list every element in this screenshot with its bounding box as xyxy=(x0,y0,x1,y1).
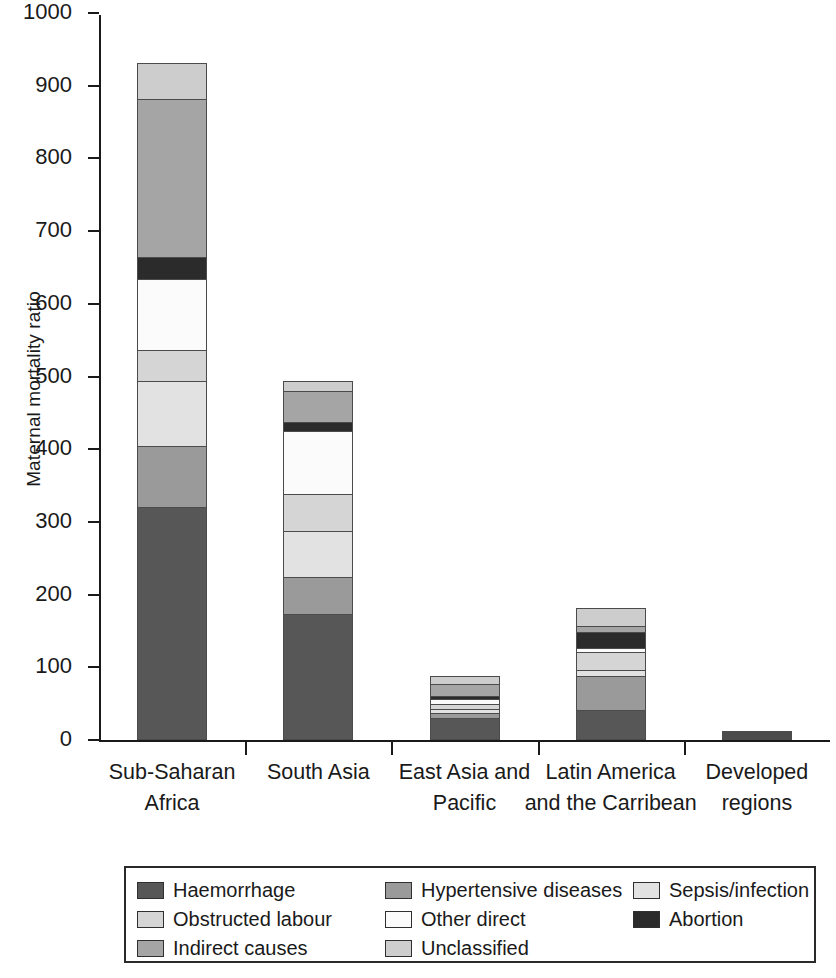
x-axis-label: Developedregions xyxy=(671,757,836,819)
y-axis-tick: 800 xyxy=(88,157,99,159)
bar-segment xyxy=(576,676,646,712)
bar-south-asia[interactable] xyxy=(283,381,353,740)
bar-segment xyxy=(283,494,353,533)
y-axis-tick: 600 xyxy=(88,303,99,305)
x-axis-tick xyxy=(391,742,393,755)
y-axis-tick: 700 xyxy=(88,230,99,232)
legend-item-sepsis-infection[interactable]: Sepsis/infection xyxy=(633,879,814,902)
legend-item-haemorrhage[interactable]: Haemorrhage xyxy=(137,879,385,902)
y-axis-tick-label: 0 xyxy=(0,726,72,752)
legend-grid: HaemorrhageHypertensive diseasesSepsis/i… xyxy=(137,876,814,963)
y-axis-tick: 1000 xyxy=(88,12,99,14)
bar-segment xyxy=(283,531,353,578)
legend-label: Sepsis/infection xyxy=(669,879,809,902)
legend-swatch xyxy=(385,882,412,899)
legend-label: Other direct xyxy=(421,908,525,931)
bar-segment xyxy=(137,507,207,740)
bar-segment xyxy=(283,431,353,495)
y-axis-tick-label: 300 xyxy=(0,508,72,534)
bar-latin-america-and-the-carribean[interactable] xyxy=(576,608,646,740)
legend-label: Indirect causes xyxy=(173,937,308,960)
legend-item-obstructed-labour[interactable]: Obstructed labour xyxy=(137,908,385,931)
y-axis-tick-label: 400 xyxy=(0,435,72,461)
bar-segment xyxy=(283,614,353,740)
y-axis-tick: 900 xyxy=(88,85,99,87)
bar-segment xyxy=(576,710,646,740)
y-axis-tick-label: 900 xyxy=(0,72,72,98)
maternal-mortality-stacked-bar-chart: Maternal mortality ratio 010020030040050… xyxy=(0,0,836,978)
bar-segment xyxy=(137,279,207,352)
y-axis-tick-label: 500 xyxy=(0,363,72,389)
y-axis-tick-label: 1000 xyxy=(0,0,72,25)
legend-swatch xyxy=(385,911,412,928)
y-axis-tick-label: 200 xyxy=(0,581,72,607)
bar-segment xyxy=(283,577,353,615)
legend-swatch xyxy=(633,882,660,899)
legend-swatch xyxy=(137,911,164,928)
x-axis-category-labels: Sub-SaharanAfricaSouth AsiaEast Asia and… xyxy=(99,757,830,823)
y-axis-tick: 200 xyxy=(88,594,99,596)
legend-label: Abortion xyxy=(669,908,744,931)
legend-label: Obstructed labour xyxy=(173,908,332,931)
legend-item-abortion[interactable]: Abortion xyxy=(633,908,814,931)
legend: HaemorrhageHypertensive diseasesSepsis/i… xyxy=(124,866,816,963)
bar-segment xyxy=(576,652,646,671)
legend-swatch xyxy=(137,882,164,899)
y-axis-tick: 300 xyxy=(88,521,99,523)
bar-segment xyxy=(137,381,207,446)
legend-label: Haemorrhage xyxy=(173,879,295,902)
y-axis-tick: 0 xyxy=(88,739,99,741)
x-axis-tick xyxy=(245,742,247,755)
bar-segment xyxy=(722,738,792,740)
x-axis-tick xyxy=(684,742,686,755)
y-axis-tick-label: 100 xyxy=(0,653,72,679)
y-axis-tick: 500 xyxy=(88,376,99,378)
bar-segment xyxy=(430,718,500,740)
bar-segment xyxy=(576,632,646,649)
x-axis-label-line: Developed xyxy=(671,757,836,788)
legend-item-indirect-causes[interactable]: Indirect causes xyxy=(137,937,385,960)
legend-label: Unclassified xyxy=(421,937,529,960)
y-axis-tick-label: 600 xyxy=(0,290,72,316)
bar-segment xyxy=(137,446,207,509)
bar-east-asia-and-pacific[interactable] xyxy=(430,676,500,740)
legend-swatch xyxy=(137,940,164,957)
bar-segment xyxy=(576,608,646,627)
legend-label: Hypertensive diseases xyxy=(421,879,622,902)
y-axis-tick: 100 xyxy=(88,666,99,668)
y-axis-tick-label: 800 xyxy=(0,144,72,170)
bar-segment xyxy=(283,391,353,424)
x-axis-line xyxy=(99,740,830,742)
bar-segment xyxy=(137,257,207,280)
bar-segment xyxy=(137,63,207,100)
bar-developed-regions[interactable] xyxy=(722,731,792,740)
legend-item-other-direct[interactable]: Other direct xyxy=(385,908,633,931)
bar-segment xyxy=(137,99,207,257)
legend-item-unclassified[interactable]: Unclassified xyxy=(385,937,633,960)
bar-sub-saharan-africa[interactable] xyxy=(137,63,207,740)
legend-item-hypertensive-diseases[interactable]: Hypertensive diseases xyxy=(385,879,633,902)
x-axis-tick xyxy=(538,742,540,755)
y-axis-line xyxy=(99,15,101,742)
plot-area: 01002003004005006007008009001000 xyxy=(99,15,830,742)
x-axis-label-line: Africa xyxy=(86,788,258,819)
legend-swatch xyxy=(385,940,412,957)
y-axis-tick: 400 xyxy=(88,448,99,450)
x-axis-label-line: regions xyxy=(671,788,836,819)
y-axis-tick-label: 700 xyxy=(0,217,72,243)
bar-segment xyxy=(137,350,207,382)
legend-swatch xyxy=(633,911,660,928)
